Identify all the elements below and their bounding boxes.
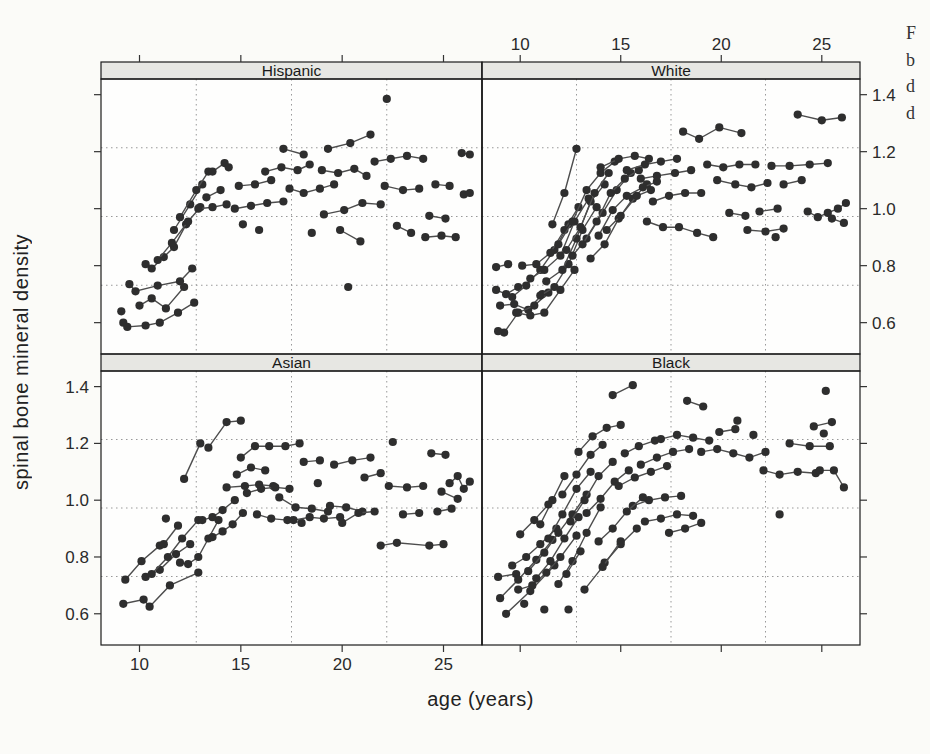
- axis-tick-label-right: 0.6: [872, 314, 896, 333]
- data-point: [564, 605, 572, 613]
- data-point: [572, 485, 580, 493]
- data-point: [609, 206, 617, 214]
- data-point: [635, 442, 643, 450]
- data-point: [639, 183, 647, 191]
- data-point: [318, 166, 326, 174]
- data-point: [729, 449, 737, 457]
- data-point: [587, 468, 595, 476]
- data-point: [617, 537, 625, 545]
- data-point: [798, 176, 806, 184]
- data-point: [142, 321, 150, 329]
- strip-white: White: [482, 62, 860, 79]
- strip-hispanic: Hispanic: [101, 62, 482, 79]
- data-point: [631, 473, 639, 481]
- data-point: [192, 186, 200, 194]
- data-point: [695, 135, 703, 143]
- data-point: [820, 429, 828, 437]
- data-point: [572, 145, 580, 153]
- data-point: [806, 160, 814, 168]
- data-point: [496, 594, 504, 602]
- data-point: [219, 506, 227, 514]
- data-point: [625, 466, 633, 474]
- data-point: [574, 448, 582, 456]
- data-point: [342, 503, 350, 511]
- data-point: [223, 483, 231, 491]
- data-point: [550, 283, 558, 291]
- axis-tick-label-top: 15: [611, 35, 630, 54]
- data-point: [735, 160, 743, 168]
- data-point: [415, 185, 423, 193]
- x-axis-title: age (years): [101, 688, 860, 711]
- data-point: [631, 152, 639, 160]
- data-point: [241, 482, 249, 490]
- data-point: [673, 431, 681, 439]
- data-point: [697, 189, 705, 197]
- data-point: [776, 471, 784, 479]
- data-point: [492, 286, 500, 294]
- data-point: [842, 199, 850, 207]
- data-point: [617, 421, 625, 429]
- data-point: [532, 260, 540, 268]
- data-point: [360, 473, 368, 481]
- data-point: [441, 451, 449, 459]
- data-point: [518, 262, 526, 270]
- data-point: [208, 168, 216, 176]
- data-point: [439, 540, 447, 548]
- data-point: [354, 509, 362, 517]
- data-point: [540, 605, 548, 613]
- y-axis-title: spinal bone mineral density: [6, 79, 36, 645]
- data-point: [154, 256, 162, 264]
- data-point: [306, 160, 314, 168]
- data-point: [681, 189, 689, 197]
- caption-fragment-line: b: [906, 47, 930, 74]
- caption-fragment-line: F: [906, 20, 930, 47]
- data-point: [194, 569, 202, 577]
- data-point: [366, 454, 374, 462]
- axis-tick-label-left: 1.4: [65, 378, 89, 397]
- data-point: [170, 226, 178, 234]
- data-point: [393, 539, 401, 547]
- data-point: [599, 563, 607, 571]
- data-point: [425, 542, 433, 550]
- data-point: [198, 516, 206, 524]
- data-point: [427, 449, 435, 457]
- data-point: [558, 510, 566, 518]
- data-point: [647, 186, 655, 194]
- axis-tick-label-bottom: 20: [333, 655, 352, 674]
- data-point: [425, 212, 433, 220]
- data-point: [146, 603, 154, 611]
- data-point: [617, 212, 625, 220]
- data-point: [780, 180, 788, 188]
- data-point: [346, 139, 354, 147]
- data-point: [659, 223, 667, 231]
- data-point: [387, 155, 395, 163]
- data-point: [320, 515, 328, 523]
- caption-fragments: F b d d: [906, 20, 930, 130]
- data-point: [826, 442, 834, 450]
- data-point: [419, 482, 427, 490]
- data-point: [279, 197, 287, 205]
- data-point: [512, 309, 520, 317]
- data-point: [763, 179, 771, 187]
- data-point: [267, 515, 275, 523]
- data-point: [162, 515, 170, 523]
- data-point: [160, 540, 168, 548]
- data-point: [767, 162, 775, 170]
- data-point: [399, 186, 407, 194]
- data-point: [371, 507, 379, 515]
- data-point: [587, 451, 595, 459]
- data-point: [190, 299, 198, 307]
- data-point: [597, 495, 605, 503]
- data-point: [466, 150, 474, 158]
- data-point: [285, 485, 293, 493]
- caption-fragment-line: d: [906, 73, 930, 100]
- data-point: [137, 557, 145, 565]
- data-point: [419, 155, 427, 163]
- data-point: [540, 266, 548, 274]
- data-point: [830, 466, 838, 474]
- data-point: [665, 529, 673, 537]
- data-point: [554, 529, 562, 537]
- data-point: [294, 166, 302, 174]
- data-point: [336, 226, 344, 234]
- axis-tick-label-right: 0.8: [872, 257, 896, 276]
